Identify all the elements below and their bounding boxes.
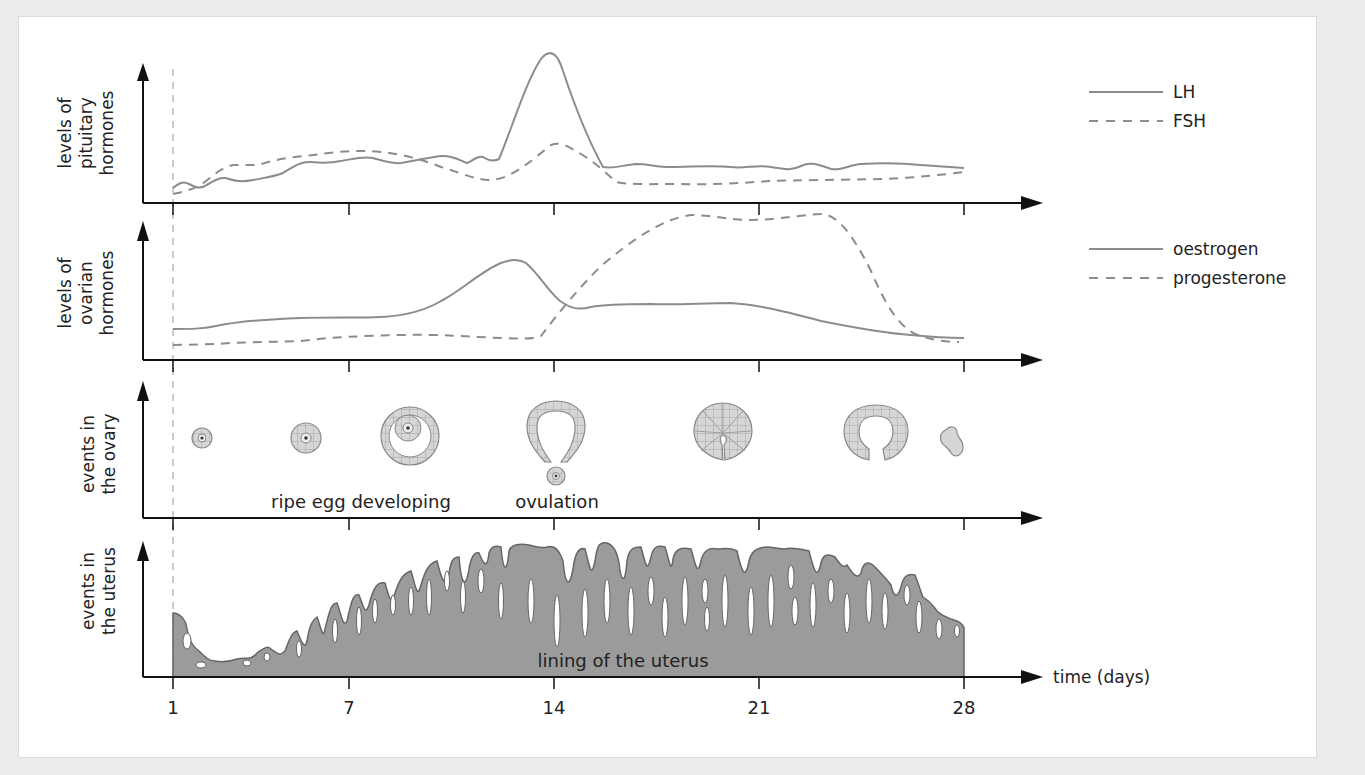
ripe-follicle-icon xyxy=(381,407,439,465)
panel-pituitary xyxy=(137,53,1043,215)
x-axis-arrow-icon xyxy=(1021,670,1043,684)
x-axis-arrow-icon xyxy=(1021,511,1043,525)
y-axis-arrow-icon xyxy=(137,221,149,241)
growing-follicle-icon xyxy=(291,423,321,453)
svg-text:the uterus: the uterus xyxy=(99,547,119,635)
primary-follicle-icon xyxy=(192,428,212,448)
ylabel-uterus: events in the uterus xyxy=(78,547,119,635)
legend-oestrogen: oestrogen xyxy=(1173,239,1258,259)
x-axis-arrow-icon xyxy=(1021,353,1043,367)
corpus-albicans-icon xyxy=(940,427,963,456)
svg-text:ovarian: ovarian xyxy=(76,261,96,325)
regressing-corpus-luteum-icon xyxy=(844,405,908,460)
corpus-luteum-icon xyxy=(694,403,752,460)
menstrual-cycle-figure: LH FSH oestrogen progesterone xyxy=(19,17,1316,757)
svg-text:7: 7 xyxy=(343,697,354,718)
svg-text:hormones: hormones xyxy=(97,250,117,335)
panel-ovarian xyxy=(137,214,1043,372)
svg-text:21: 21 xyxy=(748,697,771,718)
legend-ovarian: oestrogen progesterone xyxy=(1089,239,1286,288)
annotation-ripe-egg: ripe egg developing xyxy=(271,491,451,512)
annotation-lining: lining of the uterus xyxy=(537,650,708,671)
legend-progesterone: progesterone xyxy=(1173,268,1286,288)
y-axis-arrow-icon xyxy=(137,541,149,561)
annotation-ovulation: ovulation xyxy=(515,491,599,512)
y-axis-arrow-icon xyxy=(137,63,149,81)
panel-ovary: ripe egg developing ovulation xyxy=(137,381,1043,530)
x-axis-label: time (days) xyxy=(1053,667,1150,687)
svg-text:1: 1 xyxy=(167,697,178,718)
svg-text:levels of: levels of xyxy=(55,96,75,168)
svg-text:28: 28 xyxy=(953,697,976,718)
svg-text:pituitary: pituitary xyxy=(76,97,96,169)
ylabel-pituitary: levels of pituitary hormones xyxy=(55,90,117,175)
svg-text:events in: events in xyxy=(78,552,98,630)
ylabel-ovary: events in the ovary xyxy=(78,413,119,494)
legend-fsh: FSH xyxy=(1173,111,1206,131)
oestrogen-line xyxy=(173,260,964,338)
ruptured-follicle-icon xyxy=(527,401,585,485)
lh-line xyxy=(173,53,964,188)
svg-text:levels of: levels of xyxy=(55,256,75,328)
x-axis-arrow-icon xyxy=(1021,196,1043,210)
svg-text:hormones: hormones xyxy=(97,90,117,175)
svg-text:14: 14 xyxy=(543,697,566,718)
ylabel-ovarian: levels of ovarian hormones xyxy=(55,250,117,335)
panel-uterus: lining of the uterus time (days) 1 7 14 … xyxy=(137,541,1150,718)
figure-card: LH FSH oestrogen progesterone xyxy=(18,16,1317,758)
svg-text:events in: events in xyxy=(78,415,98,493)
legend-pituitary: LH FSH xyxy=(1089,82,1206,131)
svg-text:the ovary: the ovary xyxy=(99,413,119,494)
y-axis-arrow-icon xyxy=(137,381,149,401)
legend-lh: LH xyxy=(1173,82,1195,102)
x-tick-labels: 1 7 14 21 28 xyxy=(167,697,975,718)
